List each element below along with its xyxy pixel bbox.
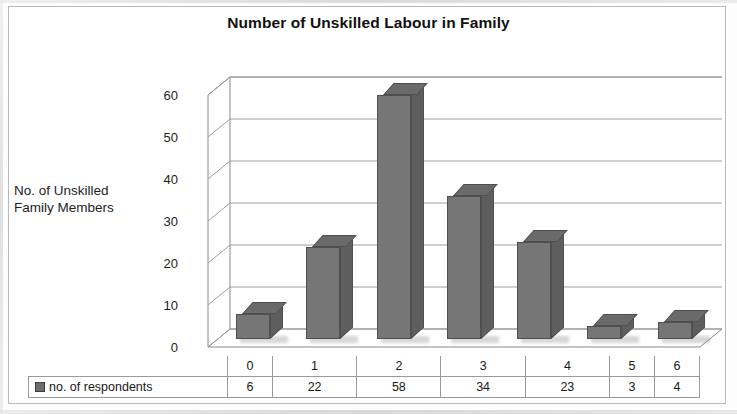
table-row: no. of respondents 62258342334 [29, 377, 700, 398]
table-value-cell: 6 [228, 377, 273, 398]
table-category-header: 3 [441, 356, 525, 377]
bar-side-face [551, 231, 564, 339]
bar-front-face [236, 314, 270, 339]
bar-front-face [658, 322, 692, 339]
bar-front-face [377, 95, 411, 339]
table-value-cell: 22 [272, 377, 356, 398]
table-value-cell: 3 [610, 377, 655, 398]
data-table: 0123456 no. of respondents 62258342334 [28, 356, 700, 398]
table-value-cell: 34 [441, 377, 525, 398]
chart-title: Number of Unskilled Labour in Family [0, 14, 737, 32]
scan-edge-bottom [0, 410, 737, 414]
table-category-header: 1 [272, 356, 356, 377]
bar-2 [377, 95, 411, 339]
y-axis-tick-label: 0 [132, 340, 178, 355]
table-category-header: 5 [610, 356, 655, 377]
bar-front-face [517, 242, 551, 339]
table-header-row: 0123456 [29, 356, 700, 377]
bar-front-face [306, 247, 340, 339]
table-value-cell: 4 [654, 377, 699, 398]
scan-edge-left [0, 0, 3, 414]
table-category-header: 2 [357, 356, 441, 377]
bar-4 [517, 242, 551, 339]
plot-area: 0102030405060 [186, 40, 726, 358]
bar-5 [587, 326, 621, 339]
bar-chart-figure: Number of Unskilled Labour in Family No.… [0, 0, 737, 414]
table-category-header: 4 [525, 356, 609, 377]
bar-side-face [411, 84, 424, 339]
y-axis-tick-label: 60 [132, 88, 178, 103]
y-axis-tick-label: 20 [132, 256, 178, 271]
legend-swatch-icon [35, 382, 45, 392]
bar-3 [447, 196, 481, 339]
bar-front-face [447, 196, 481, 339]
y-axis-tick-label: 50 [132, 130, 178, 145]
table-value-cell: 23 [525, 377, 609, 398]
y-axis-title: No. of Unskilled Family Members [14, 182, 164, 216]
table-header-spacer [29, 356, 228, 377]
table-value-cell: 58 [357, 377, 441, 398]
legend-label: no. of respondents [49, 380, 153, 394]
bar-6 [658, 322, 692, 339]
y-axis-tick-label: 40 [132, 172, 178, 187]
legend-cell: no. of respondents [29, 377, 228, 398]
y-axis-tick-label: 30 [132, 214, 178, 229]
scan-edge-top [0, 0, 737, 3]
bar-side-face [481, 184, 494, 339]
bar-side-face [340, 235, 353, 339]
bar-front-face [587, 326, 621, 339]
table-category-header: 0 [228, 356, 273, 377]
table-category-header: 6 [654, 356, 699, 377]
bar-1 [306, 247, 340, 339]
bar-0 [236, 314, 270, 339]
y-axis-tick-label: 10 [132, 298, 178, 313]
